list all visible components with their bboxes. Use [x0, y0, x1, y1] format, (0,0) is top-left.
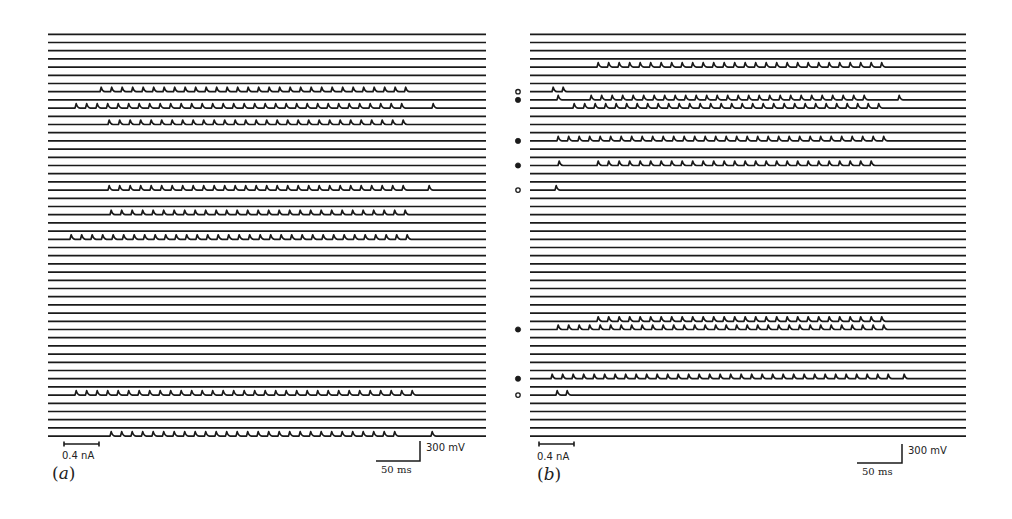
- open-circle-marker: [516, 90, 520, 94]
- filled-circle-marker: [515, 97, 520, 102]
- spiking-trace: [48, 186, 486, 191]
- panel-b-letter-text: b: [544, 464, 555, 484]
- panel-a-time-scale-label: 50 ms: [381, 464, 412, 475]
- spiking-trace: [48, 210, 486, 215]
- panel-a-voltage-scale-label: 300 mV: [426, 442, 465, 453]
- spiking-trace: [530, 63, 966, 68]
- spiking-trace: [48, 120, 486, 125]
- panel-b-current-scale-label: 0.4 nA: [537, 451, 569, 462]
- spiking-trace: [48, 87, 486, 92]
- spiking-trace: [530, 186, 966, 191]
- spiking-trace: [48, 104, 486, 109]
- panel-a-traces: [48, 34, 486, 436]
- spiking-trace: [530, 87, 966, 92]
- panel-a-current-scale-label: 0.4 nA: [62, 450, 94, 461]
- spiking-trace: [530, 317, 966, 322]
- open-circle-marker: [516, 393, 520, 397]
- panel-b-current-scale-bar: [539, 442, 574, 447]
- panel-b-markers: [515, 90, 520, 398]
- spiking-trace: [530, 104, 966, 109]
- spiking-trace: [48, 391, 486, 396]
- spiking-trace: [530, 161, 966, 166]
- panel-b-voltage-scale-label: 300 mV: [908, 445, 947, 456]
- spiking-trace: [530, 325, 966, 330]
- panel-a-letter: (a): [52, 463, 75, 483]
- spiking-trace: [48, 235, 486, 240]
- panel-b-letter: (b): [537, 464, 561, 484]
- filled-circle-marker: [515, 163, 520, 168]
- panel-a-time-voltage-scale-bar: [376, 441, 420, 461]
- spiking-trace: [530, 391, 966, 396]
- panel-a-current-scale-bar: [64, 442, 99, 447]
- panel-b-time-scale-label: 50 ms: [862, 466, 893, 477]
- spiking-trace: [530, 95, 966, 100]
- panel-b-traces: [530, 34, 966, 436]
- panel-a-letter-text: a: [59, 463, 69, 483]
- panel-b-time-voltage-scale-bar: [857, 444, 902, 463]
- filled-circle-marker: [515, 376, 520, 381]
- filled-circle-marker: [515, 327, 520, 332]
- trace-figure: [0, 0, 1012, 519]
- spiking-trace: [530, 374, 966, 379]
- filled-circle-marker: [515, 138, 520, 143]
- spiking-trace: [48, 432, 486, 437]
- open-circle-marker: [516, 188, 520, 192]
- spiking-trace: [530, 136, 966, 141]
